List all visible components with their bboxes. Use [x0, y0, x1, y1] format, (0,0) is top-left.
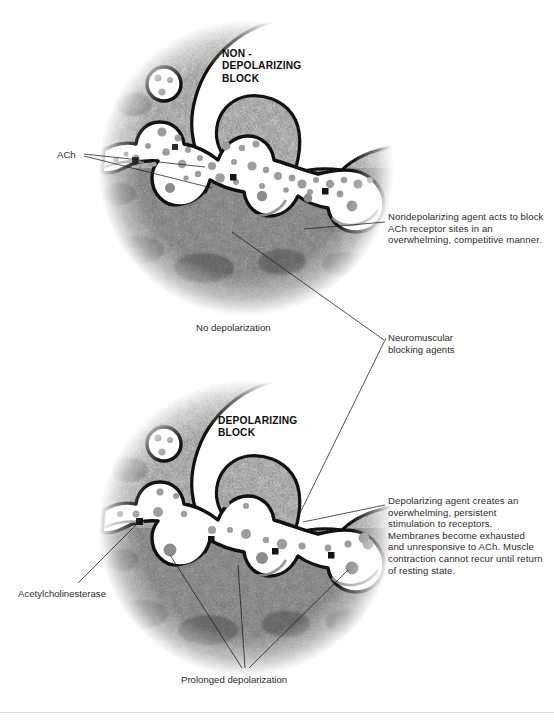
label-acetylcholinesterase: Acetylcholinesterase	[18, 588, 106, 600]
footer-divider	[0, 712, 554, 713]
panel-title-dep-line-1: DEPOLARIZING	[218, 415, 348, 427]
panel-title-line-1: NON -	[222, 48, 352, 60]
label-ach: ACh	[57, 149, 76, 161]
callout-nondepolarizing: Nondepolarizing agent acts to block ACh …	[388, 211, 546, 246]
panel-title-depolarizing: DEPOLARIZING BLOCK	[218, 415, 348, 440]
panel-title-dep-line-2: BLOCK	[218, 427, 348, 439]
label-prolonged-depolarization: Prolonged depolarization	[181, 674, 287, 686]
label-neuromuscular-blocking-agents: Neuromuscular blocking agents	[388, 332, 538, 355]
figure-canvas: NON - DEPOLARIZING BLOCK ACh No depolari…	[0, 0, 554, 726]
panel-title-line-3: BLOCK	[222, 73, 352, 85]
callout-depolarizing: Depolarizing agent creates an overwhelmi…	[388, 495, 544, 576]
synaptic-vesicle	[147, 427, 181, 461]
panel-title-nondepolarizing: NON - DEPOLARIZING BLOCK	[222, 48, 352, 85]
panel-title-line-2: DEPOLARIZING	[222, 60, 352, 72]
synaptic-vesicle	[147, 67, 181, 101]
nmba-line-1: Neuromuscular	[388, 332, 538, 344]
label-no-depolarization: No depolarization	[196, 322, 271, 334]
nmba-line-2: blocking agents	[388, 344, 538, 356]
